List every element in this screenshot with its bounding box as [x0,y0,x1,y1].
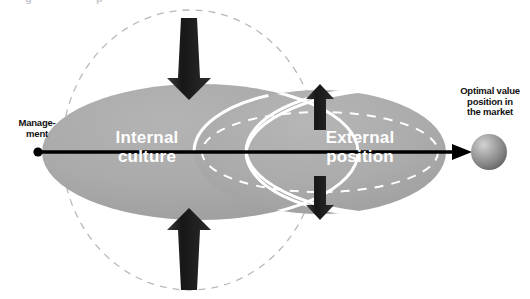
diagram-canvas [0,0,530,299]
internal-culture-label: Internal culture [88,128,206,166]
management-axis-dot [33,147,42,156]
management-axis-arrowhead [452,144,472,160]
optimal-value-label: Optimal value position in the market [451,86,529,118]
bottom-pressure-arrow [167,208,211,290]
optimal-value-sphere [471,134,507,170]
external-position-label: External position [300,128,420,166]
value-position-diagram: g p [0,0,530,299]
management-label: Manage- ment [6,118,68,139]
